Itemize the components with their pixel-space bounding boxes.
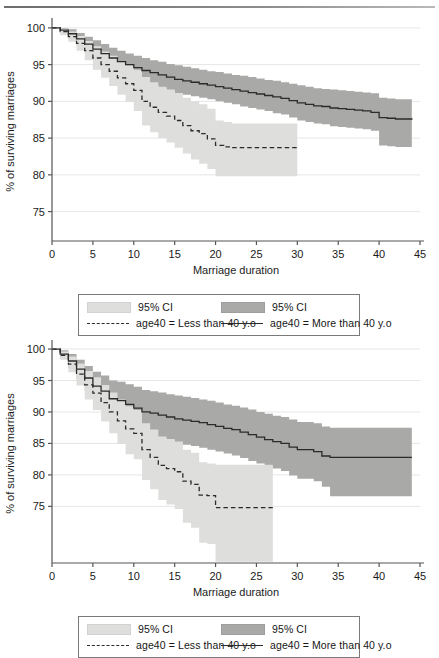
svg-text:100: 100 bbox=[27, 22, 45, 34]
dashed-line-swatch-icon bbox=[87, 641, 129, 650]
legend-item-ci-dark: 95% CI bbox=[219, 623, 353, 635]
svg-text:75: 75 bbox=[33, 500, 45, 512]
legend-label-ci-dark: 95% CI bbox=[272, 301, 307, 313]
svg-text:100: 100 bbox=[27, 343, 45, 355]
svg-text:5: 5 bbox=[90, 570, 96, 582]
svg-text:% of surviving marriages: % of surviving marriages bbox=[4, 71, 16, 192]
svg-text:90: 90 bbox=[33, 95, 45, 107]
svg-text:95: 95 bbox=[33, 375, 45, 387]
svg-text:10: 10 bbox=[128, 248, 140, 260]
solid-line-swatch-icon bbox=[221, 319, 263, 328]
svg-text:0: 0 bbox=[49, 570, 55, 582]
legend-item-ci-light: 95% CI bbox=[85, 301, 219, 313]
svg-text:0: 0 bbox=[49, 248, 55, 260]
legend-item-ci-dark: 95% CI bbox=[219, 301, 353, 313]
svg-text:35: 35 bbox=[332, 570, 344, 582]
legend-row-lines: age40 = Less than 40 y.o age40 = More th… bbox=[85, 315, 353, 331]
svg-text:5: 5 bbox=[90, 248, 96, 260]
plot-area-top: 7580859095100051015202530354045Marriage … bbox=[0, 12, 439, 280]
svg-text:25: 25 bbox=[250, 570, 262, 582]
legend-row-ci: 95% CI 95% CI bbox=[85, 621, 353, 637]
svg-text:75: 75 bbox=[33, 206, 45, 218]
svg-text:90: 90 bbox=[33, 406, 45, 418]
svg-text:30: 30 bbox=[291, 570, 303, 582]
svg-text:25: 25 bbox=[250, 248, 262, 260]
svg-text:40: 40 bbox=[373, 570, 385, 582]
svg-text:15: 15 bbox=[169, 570, 181, 582]
solid-line-swatch-icon bbox=[221, 641, 263, 650]
legend-item-ci-light: 95% CI bbox=[85, 623, 219, 635]
ci-light-swatch-icon bbox=[87, 302, 131, 313]
svg-text:15: 15 bbox=[169, 248, 181, 260]
svg-text:Marriage duration: Marriage duration bbox=[193, 586, 279, 598]
legend-item-more-than-40: age40 = More than 40 y.o bbox=[219, 639, 353, 651]
legend-label-more-than-40: age40 = More than 40 y.o bbox=[270, 639, 392, 651]
svg-text:35: 35 bbox=[332, 248, 344, 260]
legend-bottom: 95% CI 95% CI age40 = Less than 40 y.o a… bbox=[78, 616, 360, 658]
legend-label-more-than-40: age40 = More than 40 y.o bbox=[270, 317, 392, 329]
legend-label-ci-dark: 95% CI bbox=[272, 623, 307, 635]
legend-label-ci-light: 95% CI bbox=[138, 623, 173, 635]
legend-row-lines: age40 = Less than 40 y.o age40 = More th… bbox=[85, 637, 353, 653]
svg-text:20: 20 bbox=[209, 248, 221, 260]
ci-dark-swatch-icon bbox=[221, 624, 265, 635]
legend-item-less-than-40: age40 = Less than 40 y.o bbox=[85, 317, 219, 329]
svg-text:45: 45 bbox=[414, 570, 426, 582]
legend-item-more-than-40: age40 = More than 40 y.o bbox=[219, 317, 353, 329]
plot-area-bottom: 7580859095100051015202530354045Marriage … bbox=[0, 330, 439, 598]
svg-text:45: 45 bbox=[414, 248, 426, 260]
dashed-line-swatch-icon bbox=[87, 319, 129, 328]
ci-light-swatch-icon bbox=[87, 624, 131, 635]
survival-chart-top: 7580859095100051015202530354045Marriage … bbox=[0, 12, 439, 280]
svg-text:20: 20 bbox=[209, 570, 221, 582]
top-horizontal-rule bbox=[4, 6, 435, 8]
svg-text:80: 80 bbox=[33, 169, 45, 181]
legend-row-ci: 95% CI 95% CI bbox=[85, 299, 353, 315]
survival-chart-bottom: 7580859095100051015202530354045Marriage … bbox=[0, 330, 439, 602]
svg-text:% of surviving marriages: % of surviving marriages bbox=[4, 393, 16, 514]
figure-top: 7580859095100051015202530354045Marriage … bbox=[0, 12, 439, 324]
svg-text:80: 80 bbox=[33, 469, 45, 481]
figure-bottom: 7580859095100051015202530354045Marriage … bbox=[0, 330, 439, 648]
svg-text:85: 85 bbox=[33, 132, 45, 144]
svg-text:40: 40 bbox=[373, 248, 385, 260]
legend-item-less-than-40: age40 = Less than 40 y.o bbox=[85, 639, 219, 651]
svg-text:95: 95 bbox=[33, 59, 45, 71]
ci-dark-swatch-icon bbox=[221, 302, 265, 313]
svg-text:85: 85 bbox=[33, 437, 45, 449]
legend-label-ci-light: 95% CI bbox=[138, 301, 173, 313]
svg-text:Marriage duration: Marriage duration bbox=[193, 264, 279, 276]
svg-text:10: 10 bbox=[128, 570, 140, 582]
svg-text:30: 30 bbox=[291, 248, 303, 260]
